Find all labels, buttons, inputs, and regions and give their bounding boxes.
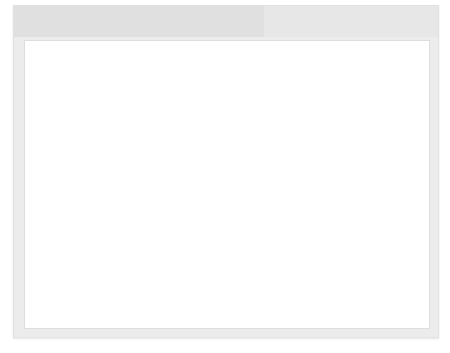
figure-panel (13, 5, 439, 338)
figure-header (14, 6, 438, 37)
figure-root (0, 0, 450, 353)
line-chart (25, 41, 429, 328)
figure-header-accent (14, 6, 264, 37)
chart-card (24, 40, 430, 329)
